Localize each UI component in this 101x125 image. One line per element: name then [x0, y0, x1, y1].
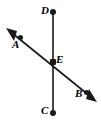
vertex-label-C: C [41, 105, 48, 116]
vertex-label-D: D [41, 5, 49, 16]
geometry-diagram-canvas: D A E B C [0, 0, 101, 125]
point-marker-C [50, 110, 56, 116]
diagram-svg [0, 0, 101, 125]
point-marker-B [84, 90, 89, 95]
vertex-label-A: A [12, 39, 19, 50]
vertex-label-B: B [75, 88, 82, 99]
vertex-label-E: E [56, 54, 63, 65]
point-marker-D [50, 9, 56, 15]
